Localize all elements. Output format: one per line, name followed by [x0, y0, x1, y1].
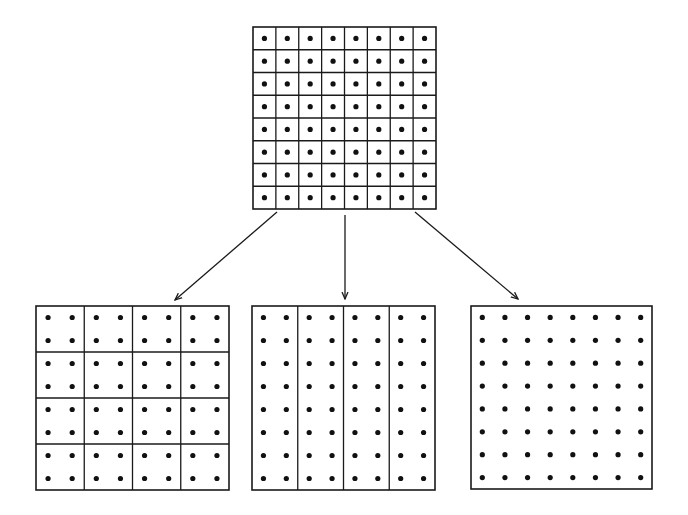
grid-point — [398, 476, 403, 481]
grid-point — [330, 59, 335, 64]
strip-partition-4x1 — [252, 306, 435, 490]
grid-point — [353, 81, 358, 86]
grid-point — [118, 384, 123, 389]
grid-point — [525, 429, 530, 434]
grid-point — [94, 384, 99, 389]
grid-point — [307, 361, 312, 366]
grid-point — [308, 104, 313, 109]
grid-point — [142, 407, 147, 412]
grid-point — [548, 315, 553, 320]
grid-point — [480, 383, 485, 388]
grid-point — [375, 338, 380, 343]
grid-point — [261, 384, 266, 389]
grid-point — [480, 452, 485, 457]
grid-point — [70, 453, 75, 458]
grid-point — [638, 383, 643, 388]
grid-point — [214, 476, 219, 481]
grid-point — [376, 195, 381, 200]
grid-point — [375, 476, 380, 481]
grid-point — [398, 430, 403, 435]
source-fine-grid — [253, 27, 436, 209]
grid-point — [525, 383, 530, 388]
grid-point — [352, 315, 357, 320]
grid-point — [398, 361, 403, 366]
grid-point — [615, 383, 620, 388]
grid-point — [190, 430, 195, 435]
grid-point — [307, 430, 312, 435]
grid-point — [525, 406, 530, 411]
grid-point — [353, 195, 358, 200]
no-partition — [471, 306, 652, 489]
grid-point — [421, 315, 426, 320]
grid-point — [142, 384, 147, 389]
grid-point — [422, 127, 427, 132]
grid-point — [330, 36, 335, 41]
grid-point — [615, 338, 620, 343]
grid-point — [421, 361, 426, 366]
grid-point — [376, 172, 381, 177]
grid-point — [45, 315, 50, 320]
grid-point — [593, 429, 598, 434]
grid-point — [118, 453, 123, 458]
grid-point — [570, 383, 575, 388]
grid-point — [422, 195, 427, 200]
grid-point — [329, 476, 334, 481]
grid-point — [118, 476, 123, 481]
grid-point — [94, 338, 99, 343]
grid-point — [502, 338, 507, 343]
grid-point — [399, 172, 404, 177]
grid-point — [548, 429, 553, 434]
grid-point — [548, 383, 553, 388]
grid-point — [94, 430, 99, 435]
grid-point — [638, 361, 643, 366]
grid-point — [262, 59, 267, 64]
grid-point — [261, 476, 266, 481]
grid-point — [45, 361, 50, 366]
grid-point — [284, 315, 289, 320]
grid-point — [70, 315, 75, 320]
grid-point — [329, 430, 334, 435]
grid-point — [421, 453, 426, 458]
grid-point — [262, 150, 267, 155]
grid-point — [615, 429, 620, 434]
grid-point — [502, 383, 507, 388]
grid-point — [214, 338, 219, 343]
grid-point — [421, 476, 426, 481]
arrows — [175, 212, 518, 300]
panel-border — [471, 306, 652, 489]
grid-point — [308, 81, 313, 86]
grid-point — [615, 475, 620, 480]
grid-point — [94, 361, 99, 366]
grid-point — [421, 338, 426, 343]
grid-point — [615, 315, 620, 320]
grid-point — [190, 453, 195, 458]
grid-point — [262, 195, 267, 200]
grid-point — [398, 338, 403, 343]
grid-point — [422, 150, 427, 155]
grid-point — [70, 361, 75, 366]
grid-point — [398, 315, 403, 320]
grid-point — [352, 453, 357, 458]
grid-point — [593, 406, 598, 411]
grid-point — [285, 59, 290, 64]
grid-point — [353, 172, 358, 177]
grid-point — [399, 150, 404, 155]
grid-point — [422, 36, 427, 41]
grid-point — [376, 150, 381, 155]
grid-point — [262, 104, 267, 109]
grid-point — [525, 452, 530, 457]
grid-point — [525, 338, 530, 343]
grid-point — [399, 104, 404, 109]
grid-point — [570, 338, 575, 343]
grid-point — [329, 453, 334, 458]
grid-point — [45, 453, 50, 458]
grid-point — [214, 407, 219, 412]
grid-point — [615, 361, 620, 366]
grid-point — [353, 104, 358, 109]
grid-point — [45, 476, 50, 481]
grid-point — [398, 384, 403, 389]
grid-point — [190, 338, 195, 343]
grid-point — [399, 195, 404, 200]
grid-point — [548, 361, 553, 366]
grid-point — [166, 407, 171, 412]
